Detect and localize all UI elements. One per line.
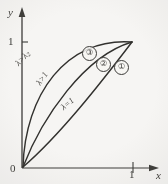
marker-circled-2: ② [96,57,111,72]
x-axis-label: x [156,170,161,181]
origin-label: 0 [10,163,16,174]
y-tick-label-1: 1 [8,36,14,47]
math-figure: y x 1 1 0 λ>λ2 λ>1 λ=1 ③ ② ① [0,0,168,184]
marker-circled-1: ① [114,60,129,75]
curve-lambda-greater-lambda2 [23,42,132,167]
marker-circled-3: ③ [82,46,97,61]
y-axis-arrowhead [19,7,26,17]
y-axis-label: y [8,7,13,18]
curve-lambda-greater-1 [23,42,132,167]
x-tick-label-1: 1 [129,169,135,180]
plot-canvas [0,0,168,184]
curve-lambda-equals-1 [23,42,132,167]
